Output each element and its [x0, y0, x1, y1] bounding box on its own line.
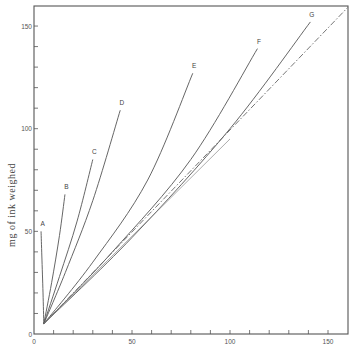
y-tick-label: 50: [25, 228, 33, 235]
series-line-lower-straight: [44, 139, 230, 324]
series-line-a: [41, 231, 44, 323]
curve-label-a: A: [40, 220, 45, 227]
curve-label-b: B: [64, 183, 68, 190]
y-axis-label-container: mg of ink weighed: [4, 160, 18, 250]
curve-label-g: G: [309, 11, 314, 18]
curve-labels: ABCDEFG: [40, 11, 314, 227]
series-lines: [41, 8, 348, 324]
series-line-g: [44, 22, 311, 324]
series-line-f: [44, 49, 258, 324]
y-tick-label: 0: [28, 331, 32, 338]
series-line-b: [44, 194, 65, 323]
curve-label-e: E: [192, 62, 197, 69]
curve-label-c: C: [92, 148, 97, 155]
curve-label-f: F: [257, 38, 261, 45]
y-tick-label: 100: [21, 125, 32, 132]
curve-label-d: D: [119, 99, 124, 106]
x-tick-label: 50: [128, 338, 136, 345]
x-tick-label: 150: [323, 338, 334, 345]
y-axis-label: mg of ink weighed: [6, 163, 17, 247]
x-tick-label: 100: [225, 338, 236, 345]
y-tick-label: 150: [21, 23, 32, 30]
series-line-reference-dash-dot-: [44, 8, 348, 324]
chart: 050100150050100150 ABCDEFG: [0, 0, 353, 353]
series-line-d: [44, 110, 120, 324]
x-tick-label: 0: [32, 338, 36, 345]
